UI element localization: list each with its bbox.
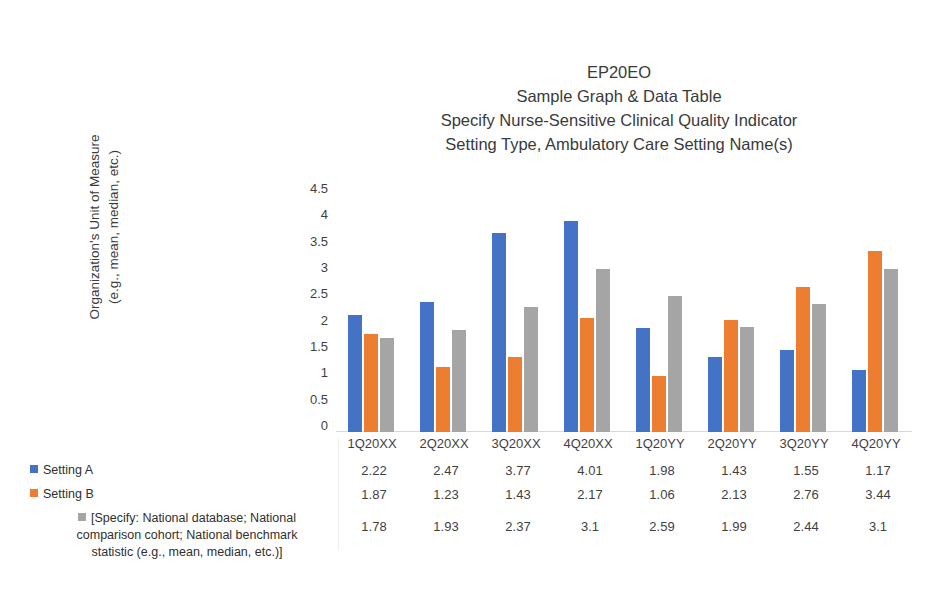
- bar-1Q20XX-series-2: [364, 334, 378, 432]
- table-cell-2Q20XX-series-3: 1.93: [410, 518, 482, 535]
- table-cell-3Q20YY-series-1: 1.55: [770, 462, 842, 479]
- table-cell-2Q20YY-series-3: 1.99: [698, 518, 770, 535]
- bar-3Q20XX-series-1: [492, 233, 506, 432]
- bar-1Q20YY-series-2: [652, 376, 666, 432]
- table-cell-4Q20XX-series-1: 4.01: [554, 462, 626, 479]
- table-cell-1Q20YY-series-3: 2.59: [626, 518, 698, 535]
- x-label-3Q20XX: 3Q20XX: [480, 436, 552, 452]
- chart-title-line-4: Setting Type, Ambulatory Care Setting Na…: [330, 132, 908, 156]
- bar-2Q20XX-series-3: [452, 330, 466, 432]
- bar-3Q20XX-series-3: [524, 307, 538, 432]
- y-tick-2.5: 2.5: [290, 287, 328, 300]
- table-cell-1Q20XX-series-3: 1.78: [338, 518, 410, 535]
- table-cell-4Q20YY-series-3: 3.1: [842, 518, 914, 535]
- bar-3Q20YY-series-3: [812, 304, 826, 433]
- y-tick-4.5: 4.5: [290, 182, 328, 195]
- table-cell-1Q20YY-series-1: 1.98: [626, 462, 698, 479]
- x-axis-category-labels: 1Q20XX2Q20XX3Q20XX4Q20XX1Q20YY2Q20YY3Q20…: [336, 436, 912, 454]
- y-axis-title-line-1: Organization's Unit of Measure: [85, 102, 104, 352]
- bar-1Q20YY-series-1: [636, 328, 650, 432]
- bar-3Q20XX-series-2: [508, 357, 522, 432]
- y-axis-title-line-2: (e.g., mean, median, etc.): [104, 102, 123, 352]
- table-cell-3Q20XX-series-2: 1.43: [482, 486, 554, 503]
- table-cell-2Q20YY-series-1: 1.43: [698, 462, 770, 479]
- bar-1Q20XX-series-1: [348, 315, 362, 432]
- legend-item-series-1[interactable]: Setting A: [30, 462, 330, 479]
- y-tick-0.5: 0.5: [290, 392, 328, 405]
- y-tick-1.5: 1.5: [290, 340, 328, 353]
- table-cell-2Q20XX-series-1: 2.47: [410, 462, 482, 479]
- y-tick-0: 0: [290, 419, 328, 432]
- bar-3Q20YY-series-2: [796, 287, 810, 432]
- legend-item-label: Setting B: [43, 487, 94, 501]
- chart-title-line-1: EP20EO: [330, 60, 908, 84]
- x-label-1Q20YY: 1Q20YY: [624, 436, 696, 452]
- bar-2Q20YY-series-2: [724, 320, 738, 432]
- bar-3Q20YY-series-1: [780, 350, 794, 432]
- bar-2Q20XX-series-2: [436, 367, 450, 432]
- legend-swatch-icon: [30, 465, 38, 473]
- bar-group-2Q20YY: [708, 195, 754, 432]
- bar-group-4Q20YY: [852, 195, 898, 432]
- bar-1Q20XX-series-3: [380, 338, 394, 432]
- bar-4Q20YY-series-3: [884, 269, 898, 432]
- table-cell-1Q20XX-series-2: 1.87: [338, 486, 410, 503]
- bar-4Q20XX-series-2: [580, 318, 594, 432]
- bar-4Q20YY-series-2: [868, 251, 882, 432]
- table-cell-3Q20XX-series-1: 3.77: [482, 462, 554, 479]
- plot-area: [336, 195, 912, 432]
- bar-group-1Q20XX: [348, 195, 394, 432]
- bar-2Q20YY-series-1: [708, 357, 722, 432]
- table-cell-3Q20YY-series-3: 2.44: [770, 518, 842, 535]
- data-table: Setting A2.222.473.774.011.981.431.551.1…: [30, 456, 912, 576]
- y-tick-4: 4: [290, 208, 328, 221]
- table-cell-3Q20YY-series-2: 2.76: [770, 486, 842, 503]
- chart-title-line-2: Sample Graph & Data Table: [330, 84, 908, 108]
- x-label-2Q20XX: 2Q20XX: [408, 436, 480, 452]
- legend-swatch-icon: [30, 489, 38, 497]
- bar-4Q20XX-series-3: [596, 269, 610, 432]
- bar-1Q20YY-series-3: [668, 296, 682, 432]
- legend-swatch-icon: [78, 513, 86, 521]
- chart-title-line-3: Specify Nurse-Sensitive Clinical Quality…: [330, 108, 908, 132]
- x-label-4Q20XX: 4Q20XX: [552, 436, 624, 452]
- bar-group-1Q20YY: [636, 195, 682, 432]
- y-axis-title: Organization's Unit of Measure (e.g., me…: [85, 102, 129, 352]
- table-cell-4Q20XX-series-3: 3.1: [554, 518, 626, 535]
- table-cell-4Q20YY-series-1: 1.17: [842, 462, 914, 479]
- legend-item-series-2[interactable]: Setting B: [30, 486, 330, 503]
- x-label-4Q20YY: 4Q20YY: [840, 436, 912, 452]
- table-cell-2Q20XX-series-2: 1.23: [410, 486, 482, 503]
- table-cell-1Q20XX-series-1: 2.22: [338, 462, 410, 479]
- legend-item-label: [Specify: National database; Nationalcom…: [77, 511, 298, 559]
- y-tick-2: 2: [290, 313, 328, 326]
- bar-2Q20XX-series-1: [420, 302, 434, 432]
- table-cell-3Q20XX-series-3: 2.37: [482, 518, 554, 535]
- chart-title: EP20EO Sample Graph & Data Table Specify…: [330, 60, 908, 156]
- bar-2Q20YY-series-3: [740, 327, 754, 432]
- bar-group-3Q20YY: [780, 195, 826, 432]
- y-tick-3.5: 3.5: [290, 234, 328, 247]
- bar-4Q20YY-series-1: [852, 370, 866, 432]
- legend-item-series-3[interactable]: [Specify: National database; Nationalcom…: [30, 510, 330, 561]
- bar-group-3Q20XX: [492, 195, 538, 432]
- bar-group-4Q20XX: [564, 195, 610, 432]
- bar-4Q20XX-series-1: [564, 221, 578, 432]
- table-cell-2Q20YY-series-2: 2.13: [698, 486, 770, 503]
- table-cell-1Q20YY-series-2: 1.06: [626, 486, 698, 503]
- y-tick-3: 3: [290, 261, 328, 274]
- x-label-2Q20YY: 2Q20YY: [696, 436, 768, 452]
- y-axis-tick-labels: 00.511.522.533.544.5: [290, 188, 328, 438]
- x-label-3Q20YY: 3Q20YY: [768, 436, 840, 452]
- bar-group-2Q20XX: [420, 195, 466, 432]
- y-tick-1: 1: [290, 366, 328, 379]
- table-cell-4Q20XX-series-2: 2.17: [554, 486, 626, 503]
- legend-item-label: Setting A: [43, 463, 93, 477]
- x-label-1Q20XX: 1Q20XX: [336, 436, 408, 452]
- table-cell-4Q20YY-series-2: 3.44: [842, 486, 914, 503]
